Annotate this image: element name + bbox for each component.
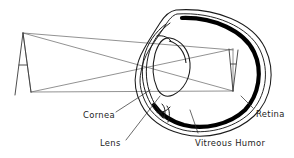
label-vitreous-humor: Vitreous Humor (195, 138, 265, 148)
inverted-image-letter-a-icon (229, 49, 238, 91)
ray-base-lower (31, 91, 233, 92)
ray-base-upper (31, 49, 233, 92)
label-leader-lines (116, 90, 253, 140)
label-cornea: Cornea (83, 110, 115, 120)
label-lens: Lens (100, 138, 121, 148)
light-ray-bundle (23, 33, 233, 92)
retina-arc (154, 18, 259, 127)
lens-ellipse (153, 38, 190, 96)
leader-vitreous (190, 110, 198, 133)
object-letter-a-icon (15, 33, 31, 95)
diagram-canvas: Cornea Lens Vitreous Humor Retina (0, 0, 294, 158)
eye-optics-diagram: Cornea Lens Vitreous Humor Retina (0, 0, 294, 158)
sclera-outline (135, 10, 271, 136)
label-retina: Retina (256, 109, 285, 119)
